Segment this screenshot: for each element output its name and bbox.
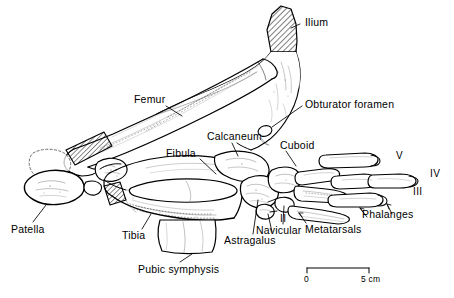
- phalanx-bones: [319, 153, 418, 207]
- scale-bar-end-label: 5 cm: [361, 274, 380, 285]
- leader-fibula: [200, 159, 216, 174]
- label-patella: Patella: [11, 224, 45, 235]
- scale-bar-start-label: 0: [304, 274, 309, 285]
- label-pubic-symphysis: Pubic symphysis: [138, 264, 219, 275]
- label-ilium: Ilium: [305, 17, 328, 28]
- ilium-bone: [267, 6, 297, 52]
- label-obturator-foramen: Obturator foramen: [305, 99, 394, 110]
- leader-patella: [33, 205, 46, 222]
- label-digit-iii: III: [413, 186, 423, 197]
- label-navicular: Navicular: [256, 225, 302, 236]
- leader-cuboid: [286, 151, 296, 166]
- leader-pubic-symphysis: [180, 254, 192, 262]
- scale-bar-graphic: [307, 268, 369, 273]
- skeleton-line-drawing: [0, 0, 454, 298]
- label-tibia: Tibia: [122, 230, 145, 241]
- label-digit-v: V: [396, 150, 403, 161]
- label-calcaneum: Calcaneum: [207, 131, 262, 142]
- label-digit-iv: IV: [430, 168, 440, 179]
- label-astragalus: Astragalus: [224, 235, 276, 246]
- label-phalanges: Phalanges: [362, 209, 413, 220]
- label-digit-ii: II: [280, 213, 286, 224]
- label-fibula: Fibula: [166, 148, 196, 159]
- leader-tibia: [142, 214, 151, 229]
- pubic-symphysis-bone: [158, 220, 216, 253]
- anatomical-figure: Ilium Obturator foramen Femur Calcaneum …: [0, 0, 454, 298]
- label-metatarsals: Metatarsals: [305, 224, 361, 235]
- label-cuboid: Cuboid: [280, 140, 314, 151]
- label-femur: Femur: [134, 94, 165, 105]
